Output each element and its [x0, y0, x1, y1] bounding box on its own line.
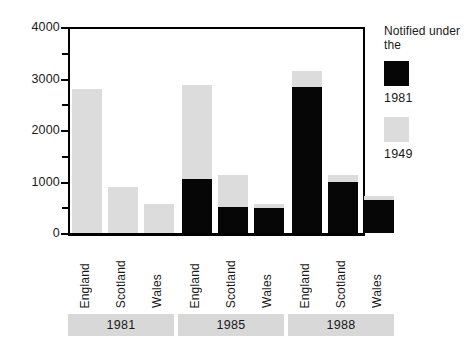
bar-1981-scotland [108, 187, 138, 233]
bar-1985-scotland [218, 175, 248, 233]
bar-segment-1949 [72, 89, 102, 233]
bar-segment-1949 [328, 175, 358, 182]
x-axis-label-england: England [298, 263, 312, 308]
y-tick-label: 0 [0, 226, 60, 240]
legend-swatch-1981 [384, 61, 409, 86]
y-tick-label: 4000 [0, 20, 60, 34]
legend-title: Notified under the [384, 24, 476, 52]
x-axis-label-scotland: Scotland [224, 260, 238, 308]
bar-1988-scotland [328, 175, 358, 233]
bar-segment-1981 [292, 87, 322, 233]
y-tick-label: 2000 [0, 123, 60, 137]
legend: Notified under the 19811949 [384, 24, 476, 173]
bar-segment-1981 [218, 207, 248, 233]
group-label-bands: 198119851988 [68, 314, 368, 338]
bar-1988-wales [364, 196, 394, 233]
x-axis-label-wales: Wales [150, 274, 164, 308]
bar-1988-england [292, 71, 322, 233]
bar-segment-1949 [292, 71, 322, 87]
bar-segment-1981 [328, 182, 358, 234]
x-axis-label-scotland: Scotland [114, 260, 128, 308]
bar-segment-1981 [364, 200, 394, 233]
x-axis-label-scotland: Scotland [334, 260, 348, 308]
x-axis-label-wales: Wales [370, 274, 384, 308]
group-band-1981: 1981 [68, 314, 174, 336]
plot-area [68, 27, 365, 236]
bar-segment-1981 [254, 208, 284, 233]
x-axis-labels: EnglandScotlandWalesEnglandScotlandWales… [68, 240, 368, 308]
x-axis-label-wales: Wales [260, 274, 274, 308]
bar-segment-1949 [144, 204, 174, 233]
legend-label-1949: 1949 [384, 147, 476, 162]
bar-1981-england [72, 89, 102, 233]
x-axis-label-england: England [78, 263, 92, 308]
bar-1981-wales [144, 204, 174, 233]
bar-segment-1981 [182, 179, 212, 233]
y-tick-label: 1000 [0, 175, 60, 189]
group-band-1985: 1985 [178, 314, 284, 336]
bar-1985-england [182, 85, 212, 233]
chart-container: 01000200030004000 EnglandScotlandWalesEn… [0, 0, 476, 349]
y-axis: 01000200030004000 [0, 18, 60, 244]
x-axis-label-england: England [188, 263, 202, 308]
bar-segment-1949 [218, 175, 248, 207]
y-tick-label: 3000 [0, 72, 60, 86]
bar-segment-1949 [182, 85, 212, 179]
group-band-1988: 1988 [288, 314, 394, 336]
legend-swatch-1949 [384, 117, 409, 142]
bar-1985-wales [254, 204, 284, 233]
bar-segment-1949 [108, 187, 138, 233]
legend-label-1981: 1981 [384, 91, 476, 106]
